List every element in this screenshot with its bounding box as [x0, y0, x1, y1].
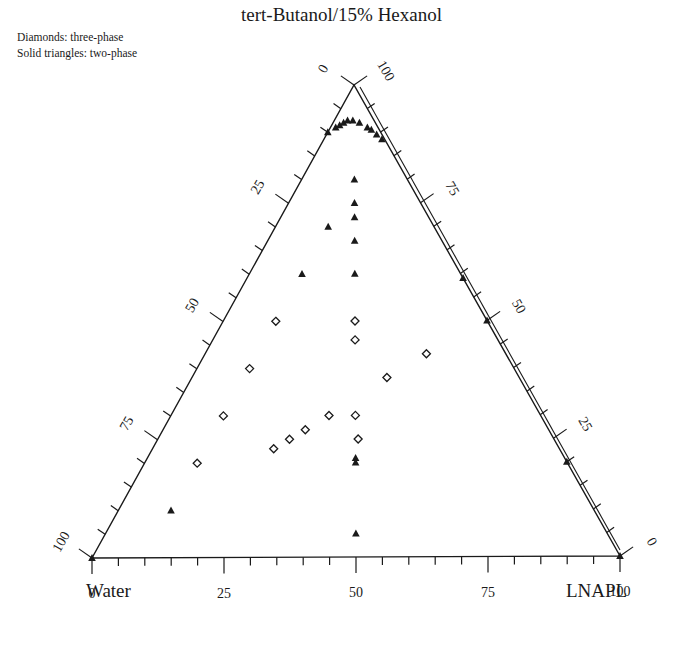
svg-text:100: 100	[49, 529, 72, 555]
svg-text:50: 50	[182, 295, 202, 315]
svg-text:25: 25	[575, 414, 595, 434]
three-phase-marker	[351, 317, 359, 325]
svg-text:50: 50	[349, 585, 363, 600]
svg-text:75: 75	[442, 179, 462, 199]
three-phase-marker	[193, 459, 201, 467]
data-points	[88, 116, 624, 561]
two-phase-marker	[324, 128, 332, 135]
svg-text:50: 50	[509, 296, 529, 316]
three-phase-marker	[286, 435, 294, 443]
three-phase-marker	[351, 336, 359, 344]
two-phase-marker	[324, 223, 332, 230]
two-phase-marker	[351, 213, 359, 220]
two-phase-marker	[351, 270, 359, 277]
svg-text:25: 25	[217, 586, 231, 601]
axis-ticks	[79, 76, 633, 574]
three-phase-marker	[325, 412, 333, 420]
tick-labels: 025507510002550751001007550250	[49, 58, 660, 601]
two-phase-marker	[349, 116, 357, 123]
two-phase-marker	[351, 199, 359, 206]
three-phase-marker	[301, 426, 309, 434]
three-phase-marker	[354, 435, 362, 443]
two-phase-marker	[167, 507, 175, 514]
ternary-plot: 025507510002550751001007550250	[0, 0, 683, 670]
three-phase-marker	[246, 365, 254, 373]
three-phase-marker	[272, 317, 280, 325]
svg-text:100: 100	[374, 58, 397, 84]
two-phase-marker	[298, 270, 306, 277]
svg-text:100: 100	[610, 584, 631, 599]
svg-text:75: 75	[481, 585, 495, 600]
two-phase-marker	[356, 119, 364, 126]
two-phase-marker	[351, 237, 359, 244]
three-phase-marker	[219, 412, 227, 420]
svg-text:0: 0	[89, 586, 96, 601]
three-phase-marker	[422, 350, 430, 358]
three-phase-marker	[270, 445, 278, 453]
two-phase-marker	[563, 458, 571, 465]
svg-text:25: 25	[248, 177, 268, 197]
two-phase-marker	[352, 529, 360, 536]
three-phase-marker	[383, 374, 391, 382]
three-phase-marker	[351, 411, 359, 419]
svg-text:0: 0	[644, 535, 660, 549]
svg-text:75: 75	[117, 414, 137, 434]
svg-text:0: 0	[315, 62, 331, 76]
two-phase-marker	[351, 175, 359, 182]
